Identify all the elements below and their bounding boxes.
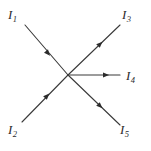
current-symbol-I5: I <box>120 122 124 137</box>
current-label-I3: I3 <box>122 8 131 21</box>
branch-line-I1 <box>25 25 68 75</box>
current-symbol-I3: I <box>122 7 126 22</box>
branch-line-I5 <box>68 75 120 125</box>
branch-line-I3 <box>68 25 120 75</box>
arrowhead-I1 <box>44 49 52 57</box>
current-label-I2: I2 <box>8 123 17 136</box>
current-subscript-I3: 3 <box>127 14 131 24</box>
current-subscript-I1: 1 <box>13 14 17 24</box>
current-subscript-I2: 2 <box>13 129 17 139</box>
current-symbol-I2: I <box>8 122 12 137</box>
current-subscript-I5: 5 <box>125 129 129 139</box>
arrowhead-I4 <box>103 72 109 77</box>
current-symbol-I1: I <box>8 7 12 22</box>
current-subscript-I4: 4 <box>131 75 135 85</box>
current-symbol-I4: I <box>126 68 130 83</box>
current-label-I1: I1 <box>8 8 17 21</box>
current-label-I5: I5 <box>120 123 129 136</box>
branch-line-I2 <box>22 75 68 122</box>
current-junction-figure: I1 I3 I4 I2 I5 <box>0 0 151 151</box>
current-label-I4: I4 <box>126 69 135 82</box>
